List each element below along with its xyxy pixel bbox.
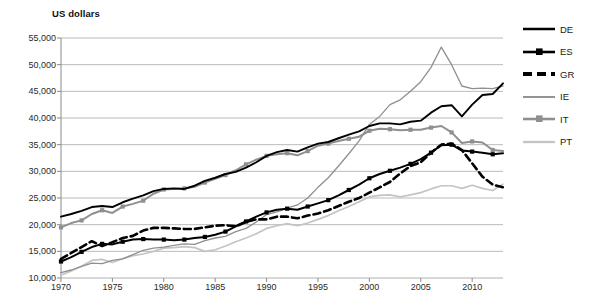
y-tick-label: 20,000 [10, 220, 56, 230]
series-marker-es [470, 150, 474, 154]
series-marker-es [388, 169, 392, 173]
series-marker-es [367, 176, 371, 180]
x-tick-label: 1995 [308, 282, 328, 292]
x-tick-label: 1970 [51, 282, 71, 292]
legend-label: IT [560, 115, 568, 125]
series-line-es [61, 145, 503, 262]
series-marker-es [141, 237, 145, 241]
legend-label: ES [560, 47, 573, 57]
plot-area [0, 0, 595, 307]
y-tick-label: 25,000 [10, 193, 56, 203]
y-tick-label: 35,000 [10, 140, 56, 150]
legend-item-de[interactable]: DE [522, 18, 594, 41]
y-tick-label: 10,000 [10, 273, 56, 283]
x-tick-label: 1975 [102, 282, 122, 292]
legend-swatch-pt [522, 136, 556, 148]
legend-swatch-gr [522, 68, 556, 80]
legend-label: GR [560, 70, 574, 80]
y-tick-label: 45,000 [10, 86, 56, 96]
series-marker-es [79, 250, 83, 254]
y-tick-label: 50,000 [10, 60, 56, 70]
x-tick-label: 2000 [359, 282, 379, 292]
series-marker-es [347, 188, 351, 192]
series-line-it [61, 126, 503, 227]
legend-label: IE [560, 92, 569, 102]
legend-swatch-es [522, 46, 556, 58]
series-marker-es [223, 230, 227, 234]
series-marker-it [408, 128, 412, 132]
series-marker-it [306, 149, 310, 153]
chart-legend: DEESGRIEITPT [522, 18, 594, 153]
x-tick-label: 1980 [154, 282, 174, 292]
y-tick-label: 15,000 [10, 246, 56, 256]
series-marker-es [326, 198, 330, 202]
series-marker-es [203, 235, 207, 239]
series-marker-it [491, 148, 495, 152]
legend-item-pt[interactable]: PT [522, 131, 594, 154]
series-marker-it [347, 137, 351, 141]
series-marker-it [100, 208, 104, 212]
y-tick-label: 55,000 [10, 33, 56, 43]
x-tick-label: 1990 [257, 282, 277, 292]
legend-item-it[interactable]: IT [522, 108, 594, 131]
series-line-ie [61, 47, 503, 273]
series-marker-es [264, 210, 268, 214]
legend-item-gr[interactable]: GR [522, 63, 594, 86]
legend-item-es[interactable]: ES [522, 41, 594, 64]
legend-label: PT [560, 137, 572, 147]
y-tick-label: 40,000 [10, 113, 56, 123]
legend-swatch-it [522, 113, 556, 125]
series-marker-it [429, 126, 433, 130]
series-marker-it [450, 130, 454, 134]
x-tick-label: 2010 [462, 282, 482, 292]
legend-item-ie[interactable]: IE [522, 86, 594, 109]
series-marker-es [121, 240, 125, 244]
y-axis-title: US dollars [52, 8, 100, 19]
series-marker-it [59, 225, 63, 229]
series-marker-es [306, 204, 310, 208]
series-marker-es [162, 238, 166, 242]
series-line-de [61, 83, 503, 216]
series-marker-es [182, 238, 186, 242]
series-marker-it [79, 218, 83, 222]
series-marker-es [285, 207, 289, 211]
series-marker-it [367, 129, 371, 133]
x-tick-label: 2005 [411, 282, 431, 292]
y-tick-label: 30,000 [10, 166, 56, 176]
series-marker-es [491, 152, 495, 156]
legend-swatch-ie [522, 91, 556, 103]
series-marker-it [285, 151, 289, 155]
series-marker-it [141, 199, 145, 203]
chart-figure: US dollars 10,00015,00020,00025,00030,00… [0, 0, 595, 307]
series-marker-it [388, 127, 392, 131]
x-tick-label: 1985 [205, 282, 225, 292]
legend-swatch-de [522, 23, 556, 35]
legend-label: DE [560, 25, 573, 35]
series-marker-it [470, 139, 474, 143]
series-marker-it [121, 204, 125, 208]
y-axis-tick-labels: 10,00015,00020,00025,00030,00035,00040,0… [8, 0, 56, 307]
